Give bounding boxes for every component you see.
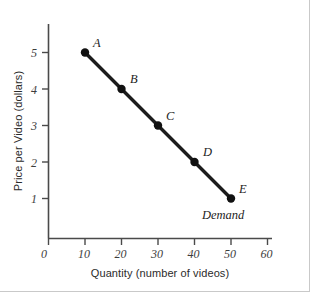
y-axis-ticks bbox=[42, 53, 49, 199]
x-tick-label-10: 10 bbox=[78, 247, 90, 261]
x-tick-label-60: 60 bbox=[261, 247, 273, 261]
data-point-e bbox=[227, 194, 235, 202]
y-tick-label-1: 1 bbox=[31, 192, 37, 206]
y-tick-label-3: 3 bbox=[30, 119, 37, 133]
x-axis-ticks bbox=[49, 239, 268, 246]
x-tick-label-30: 30 bbox=[150, 247, 163, 261]
x-tick-label-40: 40 bbox=[188, 247, 200, 261]
data-point-d bbox=[190, 158, 198, 166]
x-tick-label-50: 50 bbox=[224, 247, 236, 261]
data-point-c bbox=[154, 121, 162, 129]
data-point-a bbox=[81, 48, 89, 56]
y-tick-label-2: 2 bbox=[31, 156, 37, 170]
data-point-b bbox=[117, 85, 125, 93]
y-axis-title: Price per Video (dollars) bbox=[12, 71, 24, 191]
y-tick-label-4: 4 bbox=[31, 83, 37, 97]
point-label-e: E bbox=[238, 182, 247, 196]
x-tick-label-20: 20 bbox=[115, 247, 127, 261]
x-tick-label-0: 0 bbox=[41, 247, 47, 261]
point-label-d: D bbox=[202, 145, 212, 159]
y-tick-label-5: 5 bbox=[31, 46, 37, 60]
x-axis-title: Quantity (number of videos) bbox=[91, 267, 229, 279]
demand-curve-label: Demand bbox=[201, 208, 245, 222]
point-label-a: A bbox=[92, 36, 101, 50]
demand-curve-figure: 5 4 3 2 1 0 10 20 30 40 50 60 bbox=[0, 0, 310, 292]
point-label-b: B bbox=[130, 72, 138, 86]
demand-curve-chart: 5 4 3 2 1 0 10 20 30 40 50 60 bbox=[0, 0, 310, 292]
point-label-c: C bbox=[166, 109, 175, 123]
